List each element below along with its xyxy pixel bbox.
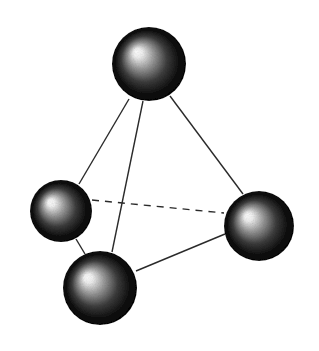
atom-sphere-right — [224, 191, 294, 261]
bond-top-bottom — [112, 101, 143, 252]
bond-top-left — [79, 99, 129, 184]
atom-sphere-bottom — [63, 251, 137, 325]
tetrahedron-diagram — [0, 0, 319, 351]
bond-left-bottom — [76, 239, 85, 254]
atom-sphere-left — [30, 180, 92, 242]
bond-bottom-right — [136, 234, 225, 271]
bonds-group — [76, 96, 243, 271]
bond-top-right — [170, 96, 243, 194]
atoms-group — [30, 27, 294, 325]
bond-left-right-hidden — [92, 200, 224, 213]
atom-sphere-top — [112, 27, 186, 101]
